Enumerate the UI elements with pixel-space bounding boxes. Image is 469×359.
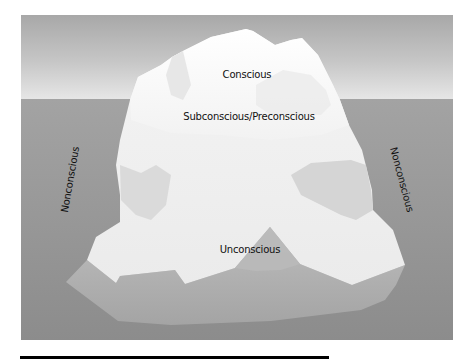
iceberg-diagram: Conscious Subconscious/Preconscious Unco… [21,15,453,340]
label-conscious: Conscious [217,69,277,80]
label-unconscious: Unconscious [215,244,285,255]
iceberg-illustration [21,15,453,340]
label-subconscious-preconscious: Subconscious/Preconscious [171,111,327,122]
